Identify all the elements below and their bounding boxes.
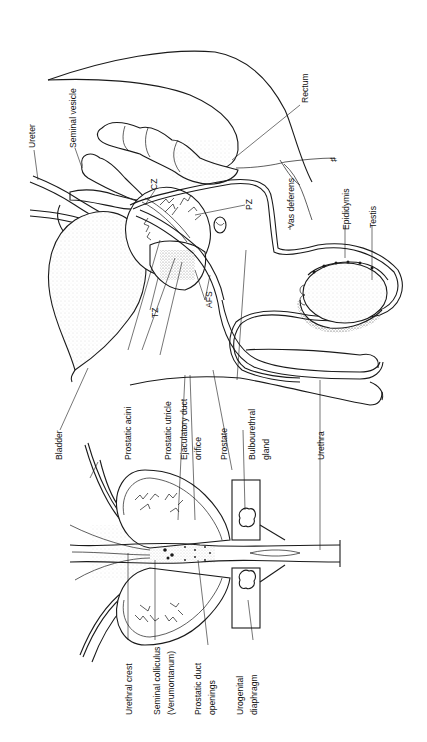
leader-lines [34,105,372,645]
bulbourethral-gland-upper [239,508,255,526]
label-rectum: Rectum [300,73,310,103]
prostate-lobe-upper [117,470,230,548]
label-afs: AFS [204,291,214,308]
label-orifice: orifice [193,437,203,460]
label-cz: CZ [149,179,159,190]
label-urethra: Urethra [316,431,326,460]
prostate-lobe-lower [117,568,230,645]
label-ejaculatory-duct: Ejaculatory duct [179,398,189,460]
label-seminal-colliculus: Seminal colliculus [152,647,162,715]
label-pz: PZ [244,199,254,210]
label-urethral-crest: Urethral crest [124,663,134,715]
label-vas-deferens: Vas deferens [286,178,296,228]
label-diaphragm: diaphragm [249,674,259,715]
coronal-section [70,443,340,662]
label-bulbourethral: Bulbourethral [247,409,257,460]
label-prostatic-duct: Prostatic duct [193,662,203,715]
label-prostatic-acini: Prostatic acini [123,406,133,460]
label-ureter: Ureter [27,124,37,148]
label-tz: TZ [150,308,160,319]
label-openings: openings [207,680,217,715]
label-testis: Testis [368,206,378,228]
label-gland: gland [261,439,271,460]
svg-text:♯: ♯ [328,157,338,162]
label-prostate: Prostate [219,428,229,460]
label-verumontanum: (Verumontanum) [166,651,176,715]
anatomy-diagram: ♯ [0,0,427,742]
bulbourethral-gland-lower [239,570,255,588]
label-urogenital: Urogenital [235,676,245,715]
label-prostatic-utricle: Prostatic utricle [163,401,173,460]
label-epididymis: Epididymis [341,188,351,230]
label-seminal-vesicle: Seminal vesicle [68,88,78,148]
label-bladder: Bladder [54,430,64,460]
